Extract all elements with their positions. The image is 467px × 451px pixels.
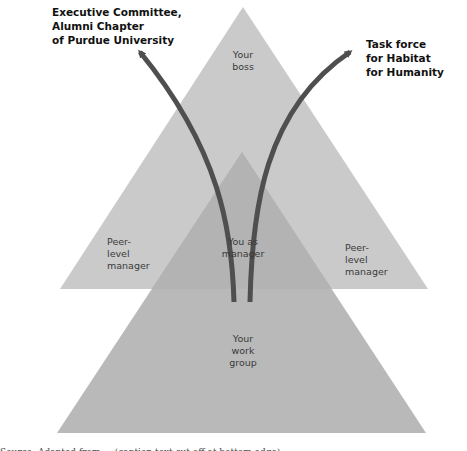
caption-text: Source: Adapted from ... (caption text c…	[0, 443, 467, 451]
label-peer-left: Peer- level manager	[107, 236, 150, 272]
label-task-force: Task force for Habitat for Humanity	[366, 37, 444, 79]
label-you-as-manager: You as manager	[213, 236, 273, 260]
label-your-boss: Your boss	[223, 49, 263, 73]
label-peer-right: Peer- level manager	[345, 242, 388, 278]
caption-cut-off: Source: Adapted from ... (caption text c…	[0, 441, 467, 451]
label-work-group: Your work group	[218, 333, 268, 369]
label-executive-committee: Executive Committee, Alumni Chapter of P…	[52, 5, 182, 47]
